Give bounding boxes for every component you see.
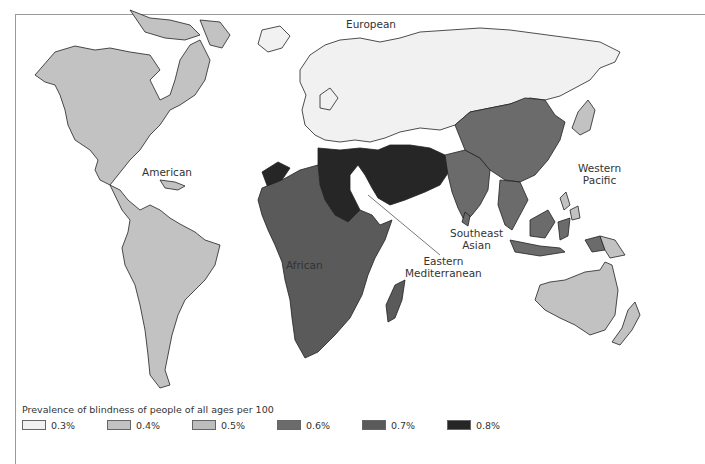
legend-item-4: 0.7% — [362, 418, 415, 432]
label-western-pacific-line2: Pacific — [578, 174, 621, 186]
legend-label: 0.4% — [136, 420, 160, 431]
legend-swatch — [192, 420, 216, 430]
label-western-pacific-line1: Western — [578, 162, 621, 174]
legend-swatch — [277, 420, 301, 430]
region-american — [35, 10, 230, 388]
legend-swatch — [447, 420, 471, 430]
region-european — [258, 26, 620, 142]
label-eastern-mediterranean-line1: Eastern — [405, 255, 482, 267]
label-african: African — [286, 259, 323, 271]
legend-label: 0.5% — [221, 420, 245, 431]
legend-label: 0.7% — [391, 420, 415, 431]
legend-item-0: 0.3% — [22, 418, 75, 432]
legend-swatch — [362, 420, 386, 430]
label-eastern-mediterranean: Eastern Mediterranean — [405, 255, 482, 279]
label-southeast-asian: Southeast Asian — [450, 227, 503, 251]
label-southeast-asian-line2: Asian — [450, 239, 503, 251]
legend-item-1: 0.4% — [107, 418, 160, 432]
legend-title: Prevalence of blindness of people of all… — [22, 404, 274, 415]
legend-item-3: 0.6% — [277, 418, 330, 432]
label-american: American — [142, 166, 192, 178]
legend-item-2: 0.5% — [192, 418, 245, 432]
label-southeast-asian-line1: Southeast — [450, 227, 503, 239]
legend-swatch — [107, 420, 131, 430]
legend-label: 0.3% — [51, 420, 75, 431]
legend-swatch — [22, 420, 46, 430]
legend-label: 0.8% — [476, 420, 500, 431]
region-western-pacific — [455, 98, 640, 345]
label-western-pacific: Western Pacific — [578, 162, 621, 186]
label-eastern-mediterranean-line2: Mediterranean — [405, 267, 482, 279]
label-european: European — [346, 18, 396, 30]
legend-item-5: 0.8% — [447, 418, 500, 432]
legend-label: 0.6% — [306, 420, 330, 431]
